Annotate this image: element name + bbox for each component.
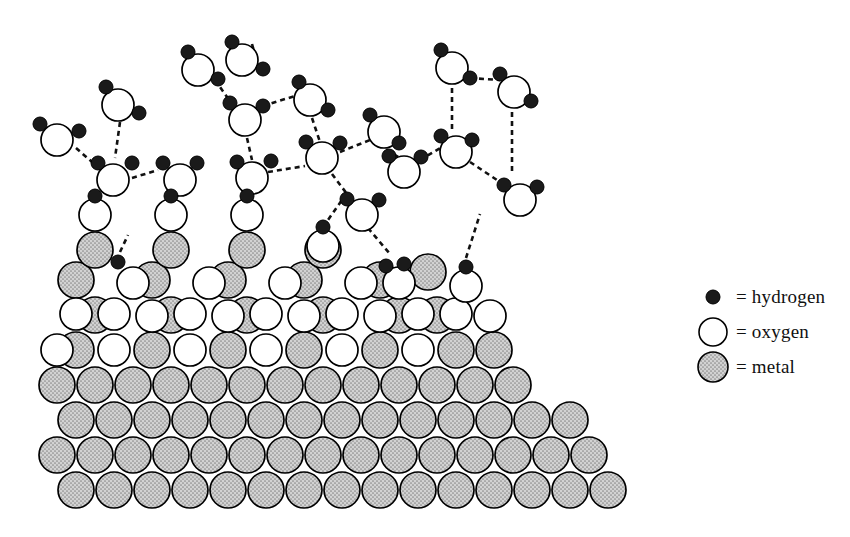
water-molecule (223, 96, 270, 136)
hydrogen-atom (340, 192, 354, 206)
water-molecule (156, 156, 204, 196)
hydrogen-atom (72, 124, 86, 138)
oxygen-atom (98, 334, 130, 366)
hydrogen-atom (156, 156, 170, 170)
metal-atom (229, 437, 265, 473)
hydrogen-atom (397, 257, 411, 271)
metal-atom (153, 232, 189, 268)
metal-atom (58, 472, 94, 508)
oxygen-atom (250, 334, 282, 366)
figure-canvas: = hydrogen = oxygen = metal (0, 0, 850, 537)
water-molecule (363, 108, 406, 150)
metal-atom (419, 367, 455, 403)
metal-atom (476, 402, 512, 438)
metal-atom (172, 402, 208, 438)
hydrogen-atom (292, 75, 306, 89)
metal-atom (343, 437, 379, 473)
hydrogen-atom (497, 178, 511, 192)
oxygen-atom (269, 267, 301, 299)
hydrogen-atom (459, 260, 473, 274)
hydrogen-atom (414, 150, 428, 164)
oxygen-atom (174, 334, 206, 366)
oxygen-atom (345, 267, 377, 299)
metal-atom (324, 402, 360, 438)
metal-atom (438, 472, 474, 508)
metal-atom (210, 472, 246, 508)
oxygen-atom (402, 334, 434, 366)
hydrogen-atom (316, 220, 330, 234)
water-molecule (181, 45, 225, 86)
legend-label-metal: = metal (736, 356, 795, 378)
oxygen-atom (402, 298, 434, 330)
metal-atom (286, 332, 322, 368)
hydrogen-atom (333, 136, 347, 150)
metal-atom (362, 402, 398, 438)
hydrogen-atom (434, 129, 448, 143)
metal-atom (267, 367, 303, 403)
legend-item-metal: = metal (690, 352, 850, 382)
metal-atom (514, 402, 550, 438)
metal-atom (438, 332, 474, 368)
metal-atom (134, 402, 170, 438)
hydrogen-atom (382, 149, 396, 163)
oxygen-atom (79, 199, 111, 231)
metal-atom (210, 402, 246, 438)
hydrogen-icon (690, 282, 736, 312)
oxygen-atom (117, 267, 149, 299)
hydrogen-atom (99, 80, 113, 94)
hydrogen-atom (372, 193, 386, 207)
hydrogen-atom (463, 71, 477, 85)
metal-atom (305, 437, 341, 473)
metal-atom (77, 437, 113, 473)
water-molecule (340, 192, 386, 231)
oxygen-atom (288, 300, 320, 332)
metal-atom (191, 367, 227, 403)
metal-atom (229, 367, 265, 403)
metal-atom (77, 367, 113, 403)
metal-atom (267, 437, 303, 473)
water-molecule (230, 154, 278, 194)
hydrogen-atom (223, 96, 237, 110)
metal-atom (39, 367, 75, 403)
water-molecule (497, 178, 544, 216)
hydrogen-atom (379, 259, 393, 273)
metal-atom (191, 437, 227, 473)
hydrogen-bond (247, 138, 252, 160)
metal-atom (248, 472, 284, 508)
oxygen-atom (155, 199, 187, 231)
hydrogen-atom (321, 103, 335, 117)
hydrogen-atom (240, 189, 254, 203)
legend: = hydrogen = oxygen = metal (690, 282, 850, 387)
metal-atom (362, 332, 398, 368)
oxygen-atom (364, 300, 396, 332)
oxygen-atom (193, 267, 225, 299)
metal-atom (552, 472, 588, 508)
metal-atom (134, 472, 170, 508)
metal-atom (381, 367, 417, 403)
legend-item-oxygen: = oxygen (690, 317, 850, 347)
metal-icon (690, 350, 736, 384)
oxygen-atom (98, 298, 130, 330)
metal-atom (457, 367, 493, 403)
metal-atom (381, 437, 417, 473)
metal-atom (286, 402, 322, 438)
metal-atom (552, 402, 588, 438)
hydrogen-bond (368, 228, 390, 254)
metal-atom (229, 232, 265, 268)
oxygen-atom (60, 298, 92, 330)
water-molecule-layer (33, 35, 544, 231)
metal-atom (400, 472, 436, 508)
hydrogen-bond (132, 170, 158, 178)
metal-atom (324, 472, 360, 508)
water-molecule (99, 80, 146, 121)
metal-atom (115, 367, 151, 403)
hydrogen-bond (120, 235, 128, 252)
oxygen-atom (450, 270, 482, 302)
oxygen-atom (174, 298, 206, 330)
metal-atom (96, 402, 132, 438)
metal-atom (419, 437, 455, 473)
molecular-diagram (0, 0, 850, 537)
metal-atom (400, 402, 436, 438)
hydrogen-atom (211, 72, 225, 86)
oxygen-atom (41, 124, 73, 156)
